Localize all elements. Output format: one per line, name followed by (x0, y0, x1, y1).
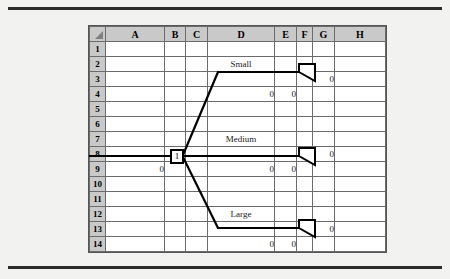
cell-a12[interactable] (106, 207, 165, 222)
select-all-corner[interactable] (90, 27, 106, 42)
cell-b3[interactable] (165, 72, 186, 87)
cell-e11[interactable] (275, 192, 297, 207)
cell-e14-payoff[interactable]: 0 (275, 237, 297, 252)
cell-h7[interactable] (335, 132, 386, 147)
row-header-8[interactable]: 8 (90, 147, 106, 162)
cell-e5[interactable] (275, 102, 297, 117)
row-header-7[interactable]: 7 (90, 132, 106, 147)
cell-f14[interactable] (297, 237, 313, 252)
cell-b11[interactable] (165, 192, 186, 207)
cell-g8-terminal-value[interactable]: 0 (313, 147, 335, 162)
cell-b13[interactable] (165, 222, 186, 237)
row-header-11[interactable]: 11 (90, 192, 106, 207)
cell-c11[interactable] (186, 192, 208, 207)
row-header-2[interactable]: 2 (90, 57, 106, 72)
cell-d14-prob[interactable]: 0 (208, 237, 275, 252)
cell-a1[interactable] (106, 42, 165, 57)
cell-b12[interactable] (165, 207, 186, 222)
row-header-14[interactable]: 14 (90, 237, 106, 252)
cell-e9-payoff[interactable]: 0 (275, 162, 297, 177)
cell-e3[interactable] (275, 72, 297, 87)
cell-h3[interactable] (335, 72, 386, 87)
cell-f13[interactable] (297, 222, 313, 237)
cell-b14[interactable] (165, 237, 186, 252)
column-header-c[interactable]: C (186, 27, 208, 42)
cell-f5[interactable] (297, 102, 313, 117)
cell-e1[interactable] (275, 42, 297, 57)
cell-b2[interactable] (165, 57, 186, 72)
cell-g6[interactable] (313, 117, 335, 132)
row-header-3[interactable]: 3 (90, 72, 106, 87)
row-header-6[interactable]: 6 (90, 117, 106, 132)
cell-e12[interactable] (275, 207, 297, 222)
cell-e13[interactable] (275, 222, 297, 237)
cell-c12[interactable] (186, 207, 208, 222)
cell-b7[interactable] (165, 132, 186, 147)
cell-f7[interactable] (297, 132, 313, 147)
column-header-b[interactable]: B (165, 27, 186, 42)
cell-g10[interactable] (313, 177, 335, 192)
cell-h1[interactable] (335, 42, 386, 57)
cell-a9-root-value[interactable]: 0 (106, 162, 165, 177)
cell-f1[interactable] (297, 42, 313, 57)
row-header-4[interactable]: 4 (90, 87, 106, 102)
cell-d8[interactable] (208, 147, 275, 162)
row-header-1[interactable]: 1 (90, 42, 106, 57)
cell-h2[interactable] (335, 57, 386, 72)
cell-a4[interactable] (106, 87, 165, 102)
cell-h8[interactable] (335, 147, 386, 162)
row-header-9[interactable]: 9 (90, 162, 106, 177)
cell-f3[interactable] (297, 72, 313, 87)
row-header-12[interactable]: 12 (90, 207, 106, 222)
cell-c8[interactable] (186, 147, 208, 162)
cell-d11[interactable] (208, 192, 275, 207)
cell-a5[interactable] (106, 102, 165, 117)
cell-a11[interactable] (106, 192, 165, 207)
cell-e2[interactable] (275, 57, 297, 72)
spreadsheet[interactable]: A B C D E F G H 1 2 Small (88, 25, 387, 253)
cell-c5[interactable] (186, 102, 208, 117)
cell-f9[interactable] (297, 162, 313, 177)
cell-h4[interactable] (335, 87, 386, 102)
row-header-13[interactable]: 13 (90, 222, 106, 237)
cell-c9[interactable] (186, 162, 208, 177)
cell-a10[interactable] (106, 177, 165, 192)
cell-h9[interactable] (335, 162, 386, 177)
cell-h14[interactable] (335, 237, 386, 252)
column-header-d[interactable]: D (208, 27, 275, 42)
cell-g4[interactable] (313, 87, 335, 102)
cell-c14[interactable] (186, 237, 208, 252)
cell-f8[interactable] (297, 147, 313, 162)
cell-d2-branch-label-small[interactable]: Small (208, 57, 275, 72)
cell-d12-branch-label-large[interactable]: Large (208, 207, 275, 222)
cell-g1[interactable] (313, 42, 335, 57)
cell-b6[interactable] (165, 117, 186, 132)
cell-f11[interactable] (297, 192, 313, 207)
cell-h13[interactable] (335, 222, 386, 237)
cell-h12[interactable] (335, 207, 386, 222)
cell-c10[interactable] (186, 177, 208, 192)
cell-d9-prob[interactable]: 0 (208, 162, 275, 177)
cell-c6[interactable] (186, 117, 208, 132)
cell-b10[interactable] (165, 177, 186, 192)
cell-f4[interactable] (297, 87, 313, 102)
cell-h11[interactable] (335, 192, 386, 207)
cell-a6[interactable] (106, 117, 165, 132)
cell-d3[interactable] (208, 72, 275, 87)
cell-g3-terminal-value[interactable]: 0 (313, 72, 335, 87)
cell-g9[interactable] (313, 162, 335, 177)
cell-h5[interactable] (335, 102, 386, 117)
cell-g13-terminal-value[interactable]: 0 (313, 222, 335, 237)
cell-f6[interactable] (297, 117, 313, 132)
decision-node-box[interactable]: 1 (170, 149, 184, 164)
cell-c4[interactable] (186, 87, 208, 102)
cell-e4-payoff[interactable]: 0 (275, 87, 297, 102)
cell-e10[interactable] (275, 177, 297, 192)
cell-h6[interactable] (335, 117, 386, 132)
cell-c1[interactable] (186, 42, 208, 57)
cell-g7[interactable] (313, 132, 335, 147)
cell-g2[interactable] (313, 57, 335, 72)
cell-e8[interactable] (275, 147, 297, 162)
cell-f12[interactable] (297, 207, 313, 222)
cell-d10[interactable] (208, 177, 275, 192)
